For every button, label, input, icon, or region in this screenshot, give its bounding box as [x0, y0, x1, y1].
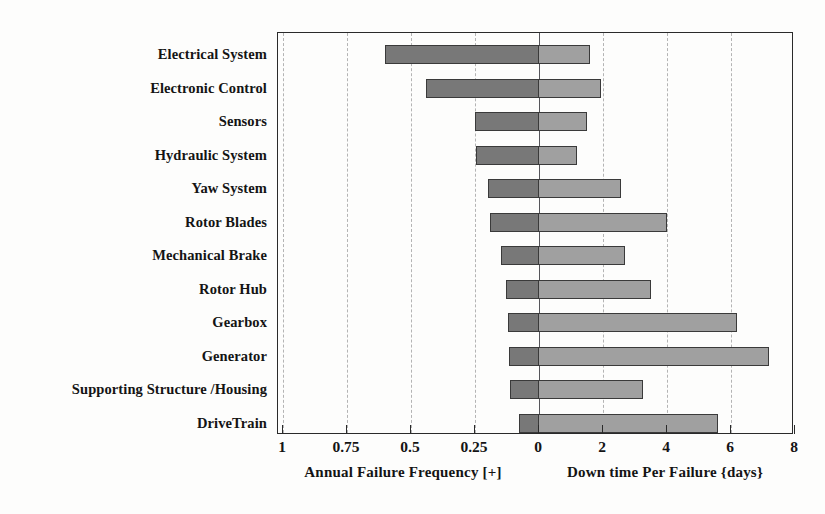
- failure-frequency-bar: [490, 213, 539, 232]
- failure-frequency-bar: [509, 347, 539, 366]
- bar-row: [278, 246, 792, 265]
- downtime-bar: [539, 79, 601, 98]
- tick-label-left: 0.25: [460, 438, 487, 456]
- failure-frequency-bar: [475, 112, 539, 131]
- downtime-bar: [539, 179, 621, 198]
- failure-frequency-bar: [488, 179, 539, 198]
- bar-row: [278, 179, 792, 198]
- category-label: Electrical System: [0, 45, 267, 63]
- category-label: Yaw System: [0, 179, 267, 197]
- bar-row: [278, 45, 792, 64]
- failure-frequency-bar: [510, 380, 539, 399]
- tickmark: [602, 425, 603, 434]
- category-axis-labels: Electrical SystemElectronic ControlSenso…: [0, 32, 272, 434]
- category-label: Mechanical Brake: [0, 246, 267, 264]
- tick-label-left: 0.5: [400, 438, 419, 456]
- axis-tick-labels: 10.750.50.2502468: [277, 438, 793, 462]
- tickmark: [538, 425, 539, 434]
- tickmark: [346, 425, 347, 434]
- tickmark: [282, 425, 283, 434]
- tick-label-left: 1: [278, 438, 286, 456]
- category-label: Generator: [0, 347, 267, 365]
- category-label: Gearbox: [0, 313, 267, 331]
- tick-label-right: 8: [790, 438, 798, 456]
- downtime-bar: [539, 246, 625, 265]
- category-label: Hydraulic System: [0, 146, 267, 164]
- failure-frequency-bar: [506, 280, 539, 299]
- category-label: Sensors: [0, 112, 267, 130]
- failure-frequency-bar: [519, 414, 539, 433]
- tickmark: [666, 425, 667, 434]
- right-axis-caption: Down time Per Failure {days}: [567, 464, 763, 481]
- downtime-bar: [539, 213, 667, 232]
- bar-row: [278, 146, 792, 165]
- downtime-bar: [539, 280, 651, 299]
- failure-frequency-bar: [476, 146, 539, 165]
- category-label: Electronic Control: [0, 79, 267, 97]
- failure-frequency-bar: [426, 79, 539, 98]
- bar-row: [278, 79, 792, 98]
- category-label: DriveTrain: [0, 414, 267, 432]
- tick-label-left: 0.75: [332, 438, 359, 456]
- downtime-bar: [539, 414, 718, 433]
- bar-row: [278, 414, 792, 433]
- downtime-bar: [539, 112, 587, 131]
- bar-row: [278, 313, 792, 332]
- category-label: Supporting Structure /Housing: [0, 380, 267, 398]
- failure-frequency-bar: [385, 45, 539, 64]
- tick-label-left: 0: [534, 438, 542, 456]
- tickmark: [474, 425, 475, 434]
- bar-row: [278, 280, 792, 299]
- downtime-bar: [539, 146, 577, 165]
- bar-row: [278, 112, 792, 131]
- axis-captions: Annual Failure Frequency [+] Down time P…: [0, 464, 825, 494]
- failure-frequency-bar: [501, 246, 539, 265]
- bar-row: [278, 380, 792, 399]
- downtime-bar: [539, 380, 643, 399]
- tick-label-right: 4: [662, 438, 670, 456]
- downtime-bar: [539, 45, 590, 64]
- category-label: Rotor Hub: [0, 280, 267, 298]
- tickmark: [794, 425, 795, 434]
- plot-area: [277, 32, 793, 434]
- category-label: Rotor Blades: [0, 213, 267, 231]
- tick-label-right: 6: [726, 438, 734, 456]
- downtime-bar: [539, 313, 737, 332]
- bar-row: [278, 347, 792, 366]
- downtime-bar: [539, 347, 769, 366]
- wind-turbine-failure-chart: Electrical SystemElectronic ControlSenso…: [0, 0, 825, 514]
- tick-label-right: 2: [598, 438, 606, 456]
- tickmark: [730, 425, 731, 434]
- left-axis-caption: Annual Failure Frequency [+]: [304, 464, 501, 481]
- failure-frequency-bar: [508, 313, 539, 332]
- bar-row: [278, 213, 792, 232]
- tickmark: [410, 425, 411, 434]
